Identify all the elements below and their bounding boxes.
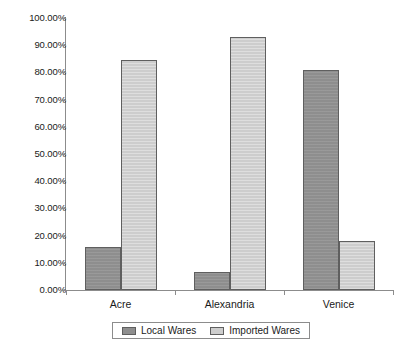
bar-alexandria-imported-wares [230,37,266,290]
bar-chart: 0.00%10.00%20.00%30.00%40.00%50.00%60.00… [0,0,415,359]
x-axis-tick-mark [284,290,285,295]
x-axis-tick-mark [175,290,176,295]
legend-label: Local Wares [141,325,196,337]
x-axis-label-acre: Acre [66,297,175,311]
legend-swatch-icon [210,327,224,335]
x-axis-line [65,290,394,291]
bar-acre-local-wares [85,247,121,290]
legend-label: Imported Wares [229,325,300,337]
bar-venice-local-wares [303,70,339,290]
legend-swatch-icon [122,327,136,335]
plot-area [66,18,393,290]
x-axis-tick-mark [393,290,394,295]
legend-entry-local-wares: Local Wares [122,325,196,337]
chart-legend: Local WaresImported Wares [112,322,310,339]
figure-caption [0,348,415,359]
bar-alexandria-local-wares [194,272,230,290]
x-axis-tick-mark [66,290,67,295]
x-axis-label-alexandria: Alexandria [175,297,284,311]
x-axis-label-venice: Venice [284,297,393,311]
legend-entry-imported-wares: Imported Wares [210,325,300,337]
bar-acre-imported-wares [121,60,157,290]
bar-venice-imported-wares [339,241,375,290]
